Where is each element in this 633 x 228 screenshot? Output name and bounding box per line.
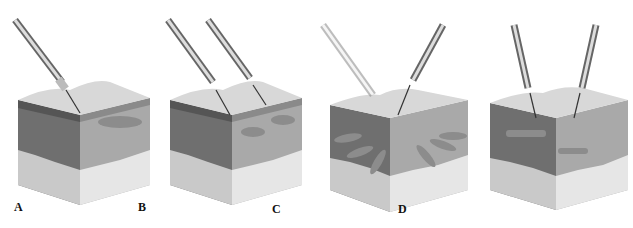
panel-label-b: B (138, 200, 146, 215)
panel-c: C (318, 0, 478, 228)
panel-label-a: A (14, 200, 23, 215)
skin-block-illustration-b (158, 0, 318, 228)
skin-block-illustration-a (0, 0, 160, 228)
panel-b: B (158, 0, 318, 228)
panel-label-c: C (272, 202, 281, 217)
needle-icon (323, 25, 373, 95)
skin-block-illustration-d (478, 0, 633, 228)
panel-d: D (478, 0, 633, 228)
panel-a: A (0, 0, 160, 228)
skin-block-illustration-c (318, 0, 478, 228)
panel-label-d: D (398, 202, 407, 217)
